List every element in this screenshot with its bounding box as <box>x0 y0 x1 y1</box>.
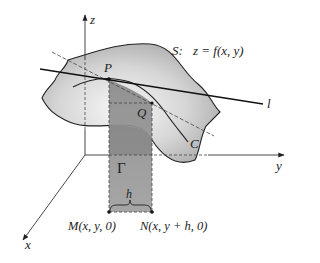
increment-h-label: h <box>126 188 132 200</box>
surface-equation: z = f(x, y) <box>193 44 244 57</box>
y-axis-label: y <box>276 159 282 172</box>
z-axis-label: z <box>90 13 95 26</box>
curve-c-label: C <box>190 137 199 150</box>
section-gamma-label: Γ <box>117 161 126 176</box>
point-q-label: Q <box>137 106 146 119</box>
point-p <box>107 77 111 81</box>
point-m-label: M(x, y, 0) <box>68 220 116 233</box>
point-n-label: N(x, y + h, 0) <box>140 220 207 233</box>
x-axis-label: x <box>25 238 31 251</box>
point-q <box>150 101 153 104</box>
tangent-line-label: l <box>267 97 271 110</box>
surface-label: S: <box>172 44 183 57</box>
point-p-label: P <box>104 61 112 74</box>
